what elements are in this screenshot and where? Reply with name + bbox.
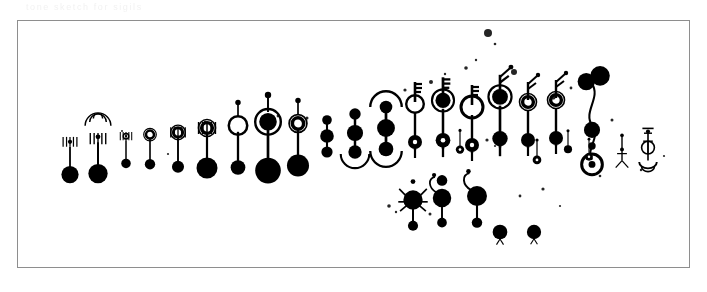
figure-root: tone sketch for sigils row of forms seq …	[0, 0, 707, 292]
plot-frame	[17, 20, 690, 268]
header-faint-title: tone sketch for sigils	[26, 2, 446, 18]
